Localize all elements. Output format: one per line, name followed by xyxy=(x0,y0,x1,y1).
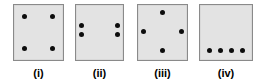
dot-marker xyxy=(160,48,165,53)
dot-marker xyxy=(207,48,212,53)
dot-square xyxy=(137,4,188,61)
dot-marker xyxy=(22,14,27,19)
figure-panel: (i) xyxy=(13,4,64,84)
dot-marker xyxy=(141,29,146,34)
figure-panel: (iii) xyxy=(137,4,188,84)
dot-marker xyxy=(79,23,84,28)
dot-square xyxy=(199,4,253,61)
dot-marker xyxy=(22,46,27,51)
figure-panel: (iv) xyxy=(199,4,253,84)
figure-panel: (ii) xyxy=(75,4,124,84)
dot-marker xyxy=(50,14,55,19)
dot-marker xyxy=(179,29,184,34)
dot-marker xyxy=(115,23,120,28)
dot-marker xyxy=(79,32,84,37)
dot-marker xyxy=(218,48,223,53)
dot-square xyxy=(13,4,64,61)
dot-square xyxy=(75,4,124,61)
panel-label: (iii) xyxy=(137,66,188,80)
dot-marker xyxy=(160,10,165,15)
panel-label: (iv) xyxy=(199,66,253,80)
dot-marker xyxy=(240,48,245,53)
panel-label: (i) xyxy=(13,66,64,80)
dot-marker xyxy=(115,32,120,37)
panel-label: (ii) xyxy=(75,66,124,80)
dot-marker xyxy=(229,48,234,53)
dot-marker xyxy=(50,46,55,51)
dot-arrangement-figure: (i)(ii)(iii)(iv) xyxy=(0,0,265,84)
